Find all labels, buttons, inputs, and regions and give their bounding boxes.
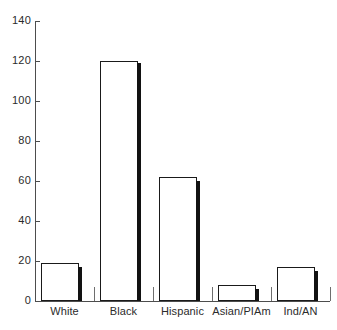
y-tick-label: 40 <box>0 215 31 226</box>
y-tick-mark <box>35 221 40 222</box>
y-tick-mark <box>35 101 40 102</box>
y-tick-mark <box>35 21 40 22</box>
bar-open-ind-an <box>277 267 315 301</box>
y-tick-label: 80 <box>0 135 31 146</box>
bar-solid-hispanic <box>196 181 200 301</box>
bar-open-hispanic <box>159 177 197 301</box>
category-separator-4 <box>271 287 272 301</box>
bar-open-white <box>41 263 79 301</box>
y-tick-label: 100 <box>0 95 31 106</box>
bar-open-black <box>100 61 138 301</box>
y-tick-mark <box>35 141 40 142</box>
y-tick-mark <box>35 301 40 302</box>
y-tick-mark <box>35 61 40 62</box>
x-axis-label-ind-an: Ind/AN <box>261 305 337 317</box>
y-tick-mark <box>35 261 40 262</box>
bar-chart: 020406080100120140 WhiteBlackHispanicAsi… <box>0 0 337 330</box>
y-tick-label: 120 <box>0 55 31 66</box>
y-tick-mark <box>35 181 40 182</box>
y-axis-line <box>35 21 36 302</box>
category-separator-5 <box>330 287 331 301</box>
category-separator-1 <box>94 287 95 301</box>
category-separator-2 <box>153 287 154 301</box>
category-separator-3 <box>212 287 213 301</box>
bar-solid-asian-piam <box>255 289 259 301</box>
bar-solid-black <box>137 63 141 301</box>
x-axis-line <box>35 301 330 302</box>
y-tick-label: 60 <box>0 175 31 186</box>
y-tick-label: 20 <box>0 255 31 266</box>
y-tick-label: 140 <box>0 15 31 26</box>
bar-solid-ind-an <box>314 271 318 301</box>
bar-open-asian-piam <box>218 285 256 301</box>
bar-solid-white <box>78 267 82 301</box>
